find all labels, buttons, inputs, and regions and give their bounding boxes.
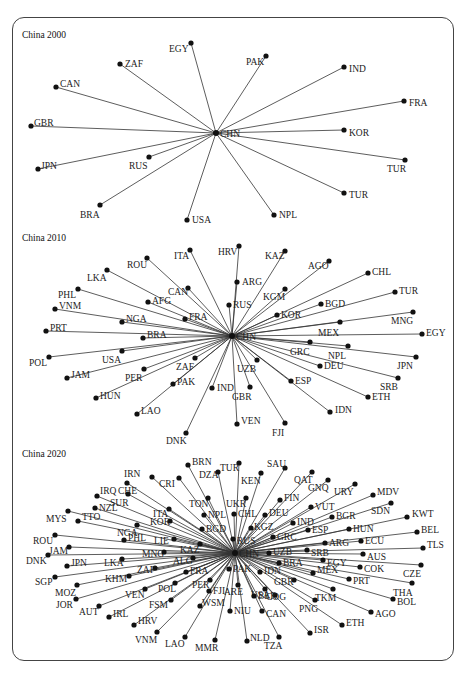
node-dot	[307, 339, 312, 344]
node-dot	[258, 470, 263, 475]
node-dot	[53, 84, 58, 89]
node-label: GRC	[290, 347, 310, 357]
node-dot	[312, 597, 317, 602]
node-egy: EGY	[419, 328, 445, 338]
node-dot	[365, 270, 370, 275]
node-label: NPL	[328, 351, 346, 361]
node-label: ARE	[224, 587, 243, 597]
node-tur: TUR	[341, 190, 368, 200]
node-tha: THA	[393, 580, 415, 598]
node-label: POL	[158, 584, 176, 594]
node-dot	[244, 638, 249, 643]
node-label: HUN	[100, 391, 121, 401]
node-can: CAN	[259, 608, 286, 619]
node-label: COG	[266, 592, 286, 602]
node-zaf: ZAF	[137, 565, 158, 575]
node-dot	[106, 614, 111, 619]
node-srb: SRB	[304, 547, 329, 558]
node-dot	[368, 609, 373, 614]
node-dot	[360, 551, 365, 556]
node-dot	[124, 480, 129, 485]
node-dot	[199, 526, 204, 531]
node-label: PHL	[128, 533, 146, 543]
node-label: PAK	[177, 377, 195, 387]
node-dot	[401, 98, 406, 103]
node-ind: IND	[290, 517, 314, 527]
node-hun: HUN	[346, 524, 373, 534]
node-eth: ETH	[365, 392, 390, 402]
edge-chn-niu	[230, 553, 235, 611]
node-dot	[183, 430, 188, 435]
node-label: GBR	[232, 392, 252, 402]
node-label: MOZ	[55, 588, 76, 598]
node-cog: COG	[266, 592, 286, 602]
node-label: NPL	[279, 210, 297, 220]
node-sgp: SGP	[35, 574, 58, 587]
node-dot	[419, 331, 424, 336]
node-dot	[358, 538, 363, 543]
node-label: FJI	[272, 428, 284, 438]
node-fin: FIN	[277, 493, 299, 503]
node-dot	[329, 514, 334, 519]
node-label: USA	[192, 215, 211, 225]
node-label: PER	[125, 373, 143, 383]
node-pol: POL	[29, 354, 52, 368]
node-arg: ARG	[234, 277, 262, 287]
edge-chn-usa	[187, 133, 216, 220]
node-png: PNG	[299, 597, 318, 614]
node-label: JAM	[49, 546, 69, 556]
node-mdv: MDV	[370, 487, 399, 498]
node-label: TON	[189, 499, 208, 509]
node-label: CAN	[168, 287, 188, 297]
node-label: KWT	[412, 509, 434, 519]
node-tls: TLS	[420, 540, 443, 551]
edge-chn-npl	[216, 133, 274, 215]
node-label: MYS	[46, 514, 67, 524]
node-dot	[75, 518, 80, 523]
edge-chn-jpn	[232, 336, 416, 357]
node-label: JAM	[71, 370, 91, 380]
node-label: ECU	[365, 536, 384, 546]
node-tur: TUR	[387, 157, 408, 174]
node-irn: IRN	[124, 469, 155, 480]
node-label: FSM	[149, 600, 169, 610]
node-dot	[274, 312, 279, 317]
node-dot	[93, 395, 98, 400]
node-label: KEN	[241, 476, 261, 486]
node-label: LKA	[87, 273, 107, 283]
node-label: KAZ	[265, 251, 285, 261]
node-label: PAK	[246, 57, 264, 67]
node-label: NGA	[126, 314, 147, 324]
node-label: MNG	[391, 316, 413, 326]
node-label: BGD	[206, 524, 226, 534]
node-dot	[341, 127, 346, 132]
node-label: LIE	[154, 536, 169, 546]
node-dot	[145, 299, 150, 304]
node-vnm: VNM	[52, 301, 81, 312]
node-kor: KOR	[274, 310, 301, 320]
node-label: CAN	[266, 609, 286, 619]
node-mmr: MMR	[195, 637, 219, 653]
node-ven: VEN	[125, 586, 148, 600]
node-label: ISR	[314, 625, 329, 635]
node-label: TLS	[427, 540, 444, 550]
node-phl: PHL	[58, 286, 81, 300]
node-dot	[346, 576, 351, 581]
node-dot	[52, 574, 57, 579]
node-ita: ITA	[174, 247, 193, 261]
node-label: DNK	[166, 436, 187, 446]
node-label: RUS	[129, 161, 147, 171]
hub-dot	[229, 333, 235, 339]
node-dot	[322, 540, 327, 545]
node-label: GNQ	[308, 483, 329, 493]
node-jpn: JPN	[64, 558, 87, 569]
node-mex: MEX	[318, 319, 343, 338]
node-label: SRB	[380, 382, 398, 392]
node-label: JPN	[71, 558, 87, 568]
node-gbr: GBR	[28, 118, 54, 129]
node-dot	[317, 363, 322, 368]
node-can: CAN	[168, 285, 191, 297]
node-label: ETH	[372, 392, 391, 402]
node-khm: KHM	[105, 573, 132, 584]
node-dot	[35, 166, 40, 171]
